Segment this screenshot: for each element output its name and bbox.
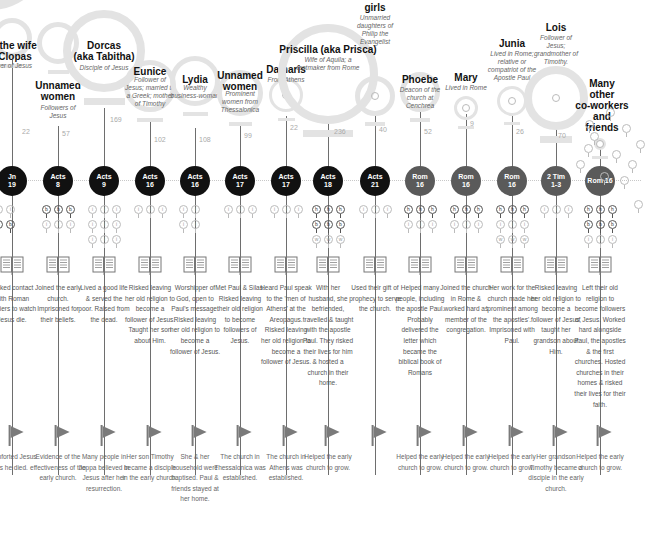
mini-venus-icon: i (100, 205, 109, 214)
bible-book-icon (316, 256, 340, 275)
mini-venus-icon: w (336, 235, 345, 244)
mini-venus-icon: h (312, 205, 321, 214)
scripture-reference-badge[interactable]: Acts 9 (89, 166, 119, 196)
risk-description: Helped many people, including the apostl… (394, 283, 446, 378)
scripture-reference-badge[interactable]: Rom 16 (585, 166, 615, 196)
bible-book-icon (274, 256, 298, 275)
mini-venus-icon: i (0, 205, 3, 214)
mini-venus-icon: h (496, 205, 505, 214)
co-worker-venus-icon (612, 150, 621, 159)
mention-count: 57 (62, 130, 70, 137)
mini-venus-icon: h (462, 205, 471, 214)
woman-description: ower of Jesus (0, 62, 38, 70)
impact-flag-icon (235, 424, 253, 446)
mention-count: 26 (516, 128, 524, 135)
co-worker-venus-icon (585, 120, 594, 129)
co-worker-venus-icon (620, 176, 629, 185)
impact-flag-icon (190, 424, 208, 446)
woman-name: Junia (499, 38, 525, 49)
mention-count: 108 (199, 136, 211, 143)
bible-book-icon (228, 256, 252, 275)
mini-venus-icon: b (0, 220, 3, 229)
co-worker-venus-icon (606, 108, 615, 117)
venus-center-dot-icon (508, 97, 516, 105)
scripture-reference-badge[interactable]: Rom 16 (451, 166, 481, 196)
mini-venus-icon: w (324, 235, 333, 244)
venus-crossbar-icon (504, 122, 520, 125)
co-worker-venus-icon (636, 140, 645, 149)
impact-flag-icon (281, 424, 299, 446)
scripture-reference-badge[interactable]: Acts 17 (225, 166, 255, 196)
mini-venus-icon: i (608, 235, 617, 244)
mini-venus-icon: h (428, 205, 437, 214)
scripture-reference-badge[interactable]: Acts 16 (135, 166, 165, 196)
mini-venus-icon: i (450, 220, 459, 229)
mini-venus-icon: i (134, 205, 143, 214)
scripture-reference-badge[interactable]: Rom 16 (405, 166, 435, 196)
mini-venus-icon: i (6, 205, 15, 214)
mini-venus-icon: i (520, 220, 529, 229)
venus-crossbar-icon (84, 98, 125, 105)
woman-description: Followers of Jesus (32, 104, 84, 120)
mini-venus-icon: i (100, 235, 109, 244)
scripture-reference-badge[interactable]: Acts 18 (313, 166, 343, 196)
scripture-reference-badge[interactable]: Jn 19 (0, 166, 27, 196)
scripture-reference-badge[interactable]: 2 Tim 1-3 (541, 166, 571, 196)
impact-description: Helped the early church to grow. (300, 452, 356, 473)
mini-venus-icon: i (112, 220, 121, 229)
scripture-reference-badge[interactable]: Acts 21 (360, 166, 390, 196)
mini-venus-icon: i (88, 220, 97, 229)
woman-description: Wife of Aquila; a tentmaker from Rome (293, 56, 363, 72)
bible-book-icon (544, 256, 568, 275)
mini-venus-icon: i (54, 220, 63, 229)
mini-venus-icon: h (608, 205, 617, 214)
mini-venus-icon: h (520, 205, 529, 214)
mention-count: 236 (334, 128, 346, 135)
venus-crossbar-icon (48, 70, 69, 74)
venus-center-dot-icon (552, 94, 560, 102)
impact-flag-icon (370, 424, 388, 446)
mini-venus-icon: i (191, 205, 200, 214)
venus-center-dot-icon (596, 140, 604, 148)
mini-venus-icon: i (179, 220, 188, 229)
co-worker-venus-icon (590, 132, 599, 141)
impact-flag-icon (323, 424, 341, 446)
venus-crossbar-icon (540, 136, 572, 143)
woman-name: Many other co-workers and friends (575, 78, 628, 133)
woman-name: Lois (546, 22, 567, 33)
mini-venus-icon: i (584, 235, 593, 244)
co-worker-venus-icon (634, 200, 643, 209)
mini-venus-icon: w (520, 235, 529, 244)
impact-flag-icon (7, 424, 25, 446)
mini-venus-icon: w (496, 235, 505, 244)
mini-venus-icon: b (66, 205, 75, 214)
mention-count: 70 (558, 132, 566, 139)
scripture-reference-badge[interactable]: Rom 16 (497, 166, 527, 196)
mini-venus-icon: i (371, 205, 380, 214)
venus-crossbar-icon (592, 156, 608, 159)
mini-venus-icon: i (383, 205, 392, 214)
mini-venus-icon: i (88, 235, 97, 244)
mini-venus-icon: i (404, 220, 413, 229)
venus-crossbar-icon (137, 118, 163, 122)
mini-venus-icon: b (312, 220, 321, 229)
bible-book-icon (46, 256, 70, 275)
mini-venus-icon: w (508, 235, 517, 244)
mini-venus-icon: i (428, 220, 437, 229)
mini-venus-icon: i (540, 205, 549, 214)
scripture-reference-badge[interactable]: Acts 16 (180, 166, 210, 196)
mini-venus-icon: h (508, 205, 517, 214)
impact-description: Helped the early church to grow. (572, 452, 628, 473)
mini-venus-icon: h (336, 205, 345, 214)
scripture-reference-badge[interactable]: Acts 17 (271, 166, 301, 196)
mini-venus-icon: i (224, 205, 233, 214)
mini-venus-icon: b (42, 205, 51, 214)
mention-count: 102 (154, 136, 166, 143)
mention-count: 22 (290, 124, 298, 131)
mention-count: 40 (379, 126, 387, 133)
woman-name: Unnamed women (217, 70, 263, 92)
mention-count: 169 (110, 116, 122, 123)
venus-center-dot-icon (462, 104, 470, 112)
scripture-reference-badge[interactable]: Acts 8 (43, 166, 73, 196)
mini-venus-icon: i (112, 205, 121, 214)
